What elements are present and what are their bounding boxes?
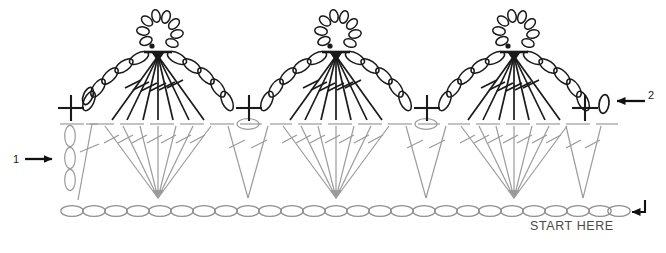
callout-2-label: 2 — [648, 89, 654, 101]
crochet-chart-svg: 1 2 START HERE — [0, 0, 666, 253]
picot-dot-1 — [149, 43, 154, 48]
callout-1-label: 1 — [13, 153, 19, 165]
crochet-diagram: 1 2 START HERE — [0, 0, 666, 253]
start-here-label: START HERE — [530, 219, 614, 233]
picot-dot-3 — [505, 43, 510, 48]
picot-dot-2 — [327, 43, 332, 48]
